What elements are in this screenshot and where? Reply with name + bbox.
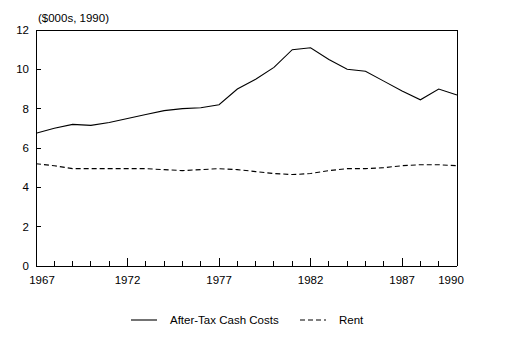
x-axis-tick-labels: 196719721977198219871990 <box>29 274 464 286</box>
series-line-after-tax-cash-costs <box>36 48 457 134</box>
x-axis-ticks <box>36 258 457 266</box>
y-axis-ticks <box>36 30 41 266</box>
x-axis-tick-label: 1967 <box>29 274 55 286</box>
x-axis-tick-label: 1982 <box>298 274 324 286</box>
legend-label-after-tax-cash-costs: After-Tax Cash Costs <box>170 314 279 326</box>
chart-unit-title: ($000s, 1990) <box>38 12 109 24</box>
y-axis-tick-labels: 024681012 <box>16 24 29 272</box>
y-axis-tick-label: 8 <box>23 103 29 115</box>
y-axis-tick-label: 0 <box>23 260 29 272</box>
x-axis-tick-label: 1987 <box>389 274 415 286</box>
chart-container: ($000s, 1990) 024681012 1967197219771982… <box>0 0 525 341</box>
y-axis-tick-label: 12 <box>16 24 29 36</box>
x-axis-tick-label: 1972 <box>115 274 141 286</box>
line-chart: ($000s, 1990) 024681012 1967197219771982… <box>0 0 525 341</box>
y-axis-tick-label: 6 <box>23 142 29 154</box>
y-axis-tick-label: 4 <box>23 181 30 193</box>
y-axis-tick-label: 10 <box>16 63 29 75</box>
x-axis-tick-label: 1990 <box>438 274 464 286</box>
legend-label-rent: Rent <box>339 314 364 326</box>
chart-legend: After-Tax Cash Costs Rent <box>131 314 364 326</box>
x-axis-tick-label: 1977 <box>206 274 232 286</box>
series-line-rent <box>36 164 457 175</box>
plot-frame <box>36 30 457 266</box>
y-axis-tick-label: 2 <box>23 221 29 233</box>
